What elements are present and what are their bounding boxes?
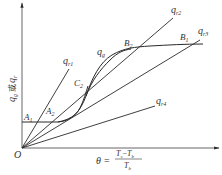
svg-text:或: 或 <box>7 84 17 92</box>
svg-text:Ts−Tb: Ts−Tb <box>116 149 134 159</box>
line-qr4 <box>22 106 155 148</box>
svg-text:θ: θ <box>96 155 101 166</box>
label-qr3: qr3 <box>198 25 208 37</box>
svg-text:qr: qr <box>6 75 18 83</box>
point-B2: B2 <box>124 38 133 49</box>
x-axis-label: θ = Ts−Tb Tb <box>96 149 142 171</box>
point-A1: A1 <box>23 112 33 123</box>
svg-text:=: = <box>104 155 110 166</box>
label-qg: qg <box>97 46 105 58</box>
label-qr1: qr1 <box>63 55 73 67</box>
origin-label: O <box>14 149 21 160</box>
curve-qg-upper-branch <box>86 49 131 96</box>
svg-text:qg: qg <box>6 94 18 102</box>
point-C2: C2 <box>74 78 83 89</box>
diagram-canvas: qg 或 qr O θ = Ts−Tb Tb qr1 qr2 qr3 qr4 q… <box>0 0 222 175</box>
y-axis-label: qg 或 qr <box>6 75 18 102</box>
label-qr2: qr2 <box>171 4 181 16</box>
point-B1: B1 <box>180 32 189 43</box>
line-qr2 <box>22 18 173 148</box>
point-A2: A2 <box>45 106 55 117</box>
svg-text:Tb: Tb <box>124 161 131 171</box>
label-qr4: qr4 <box>156 95 166 107</box>
